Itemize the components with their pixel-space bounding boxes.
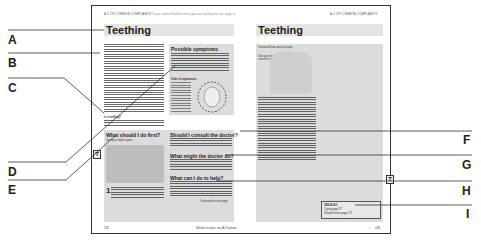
callout-c: C xyxy=(8,81,17,95)
callout-a: A xyxy=(8,33,17,47)
callout-i: I xyxy=(466,207,469,221)
callout-e: E xyxy=(8,183,16,197)
callout-g: G xyxy=(462,158,471,172)
callout-h: H xyxy=(462,184,471,198)
callout-d: D xyxy=(8,165,17,179)
callout-b: B xyxy=(8,56,17,70)
callout-f: F xyxy=(463,133,470,147)
callout-leader-lines xyxy=(0,0,481,246)
